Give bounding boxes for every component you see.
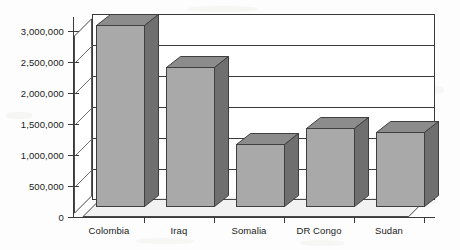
- y-axis-label-2000k: 2,000,000: [21, 88, 64, 99]
- y-axis-label-0: 0: [59, 212, 64, 223]
- x-axis-tick: [144, 218, 145, 223]
- x-axis-label-iraq: Iraq: [144, 225, 214, 236]
- x-axis-line: [73, 217, 435, 218]
- x-axis-tick: [214, 218, 215, 223]
- y-axis-tick: [68, 186, 79, 187]
- y-axis-tick: [68, 124, 79, 125]
- bar-side-face: [355, 118, 369, 207]
- bar-front-face: [97, 26, 145, 207]
- y-axis-tick: [68, 155, 79, 156]
- paper-speckle: [136, 238, 194, 244]
- bar-somalia: [236, 14, 310, 218]
- bar-chart: 0 500,000 1,000,000 1,500,000 2,000,000 …: [0, 0, 460, 250]
- gridline-depth-connectors: [74, 14, 96, 219]
- bar-dr-congo: [306, 14, 380, 218]
- bar-iraq: [166, 14, 240, 218]
- y-axis-label-3000k: 3,000,000: [21, 26, 64, 37]
- x-axis-tick: [284, 218, 285, 223]
- bar-sudan: [376, 14, 450, 218]
- paper-speckle: [188, 6, 258, 12]
- y-axis-line: [73, 17, 74, 218]
- bar-colombia: [96, 14, 170, 218]
- y-axis-tick: [68, 31, 79, 32]
- x-axis-label-dr-congo: DR Congo: [284, 225, 354, 236]
- bar-front-face: [237, 145, 285, 207]
- x-axis-tick: [354, 218, 355, 223]
- y-axis-tick: [68, 62, 79, 63]
- x-axis-label-sudan: Sudan: [354, 225, 424, 236]
- paper-speckle: [6, 112, 32, 119]
- y-axis-label-1500k: 1,500,000: [21, 119, 64, 130]
- bar-front-face: [377, 133, 425, 207]
- y-axis-label-1000k: 1,000,000: [21, 150, 64, 161]
- y-axis-tick: [68, 93, 79, 94]
- x-axis-label-colombia: Colombia: [74, 225, 144, 236]
- bar-front-face: [167, 68, 215, 207]
- bar-front-face: [307, 129, 355, 207]
- plot-area: [74, 14, 435, 217]
- y-axis-label-500k: 500,000: [29, 181, 64, 192]
- bar-side-face: [425, 122, 439, 207]
- x-axis-tick: [424, 218, 425, 223]
- bar-side-face: [215, 57, 229, 207]
- y-axis-label-2500k: 2,500,000: [21, 57, 64, 68]
- bar-side-face: [145, 15, 159, 207]
- paper-speckle: [300, 240, 344, 246]
- bar-side-face: [285, 134, 299, 207]
- x-axis-label-somalia: Somalia: [214, 225, 284, 236]
